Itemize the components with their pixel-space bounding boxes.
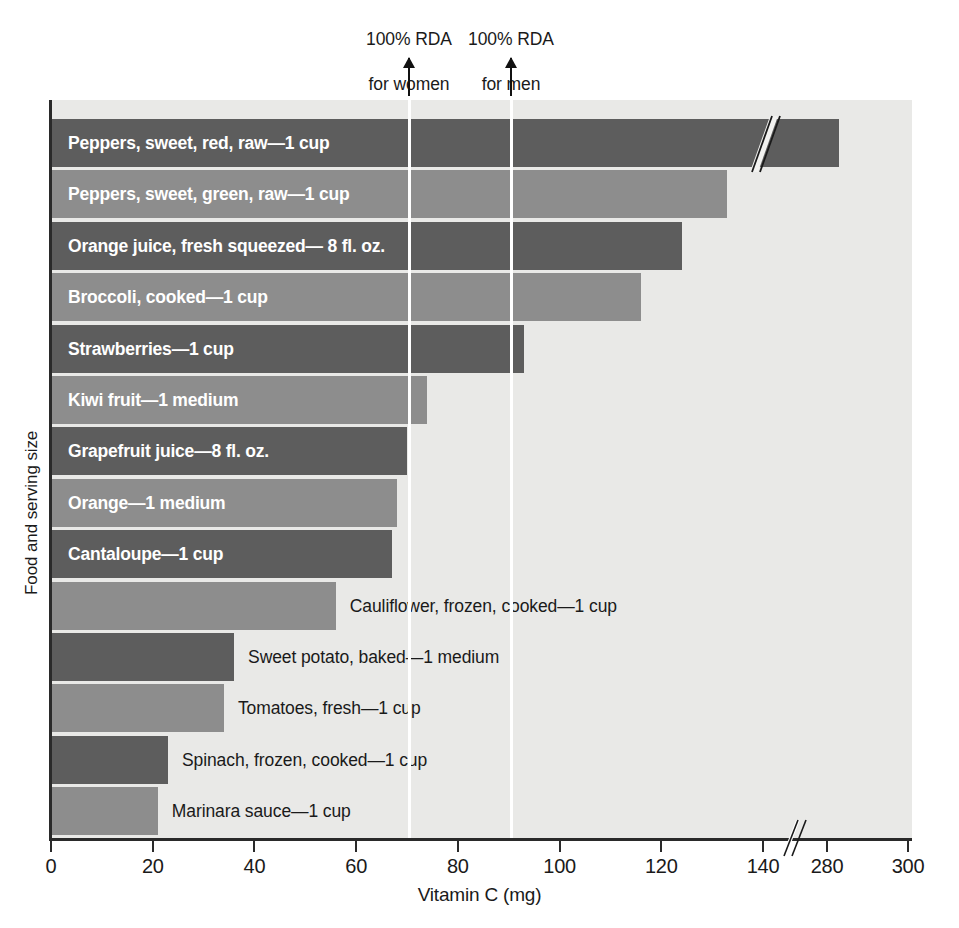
x-tick <box>660 841 662 852</box>
x-tick <box>253 841 255 852</box>
x-tick-label: 280 <box>811 855 843 878</box>
x-tick <box>762 841 764 852</box>
x-tick-label: 140 <box>747 855 779 878</box>
x-tick-label: 40 <box>244 855 266 878</box>
x-tick-label: 120 <box>645 855 677 878</box>
x-tick-label: 80 <box>447 855 469 878</box>
y-axis-title: Food and serving size <box>22 431 42 595</box>
x-tick <box>457 841 459 852</box>
x-tick-label: 300 <box>892 855 924 878</box>
x-tick-label: 20 <box>142 855 164 878</box>
x-tick-label: 0 <box>46 855 57 878</box>
x-tick <box>559 841 561 852</box>
x-axis-ticks: 020406080100120140280300 <box>0 0 959 928</box>
x-tick <box>355 841 357 852</box>
vitamin-c-bar-chart: 100% RDA for women 100% RDA for men Pepp… <box>0 0 959 928</box>
x-tick <box>826 841 828 852</box>
x-tick-label: 60 <box>345 855 367 878</box>
x-tick <box>50 841 52 852</box>
x-tick <box>152 841 154 852</box>
x-tick <box>907 841 909 852</box>
x-tick-label: 100 <box>543 855 575 878</box>
x-axis-title: Vitamin C (mg) <box>0 884 959 906</box>
